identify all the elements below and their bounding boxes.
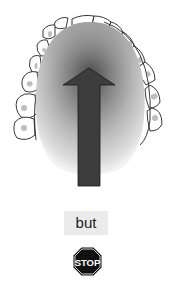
dental-arch-diagram — [0, 0, 181, 200]
stop-sign-text: STOP — [75, 257, 101, 268]
stop-sign-icon: STOP — [73, 247, 102, 276]
caption-but: but — [64, 211, 108, 235]
